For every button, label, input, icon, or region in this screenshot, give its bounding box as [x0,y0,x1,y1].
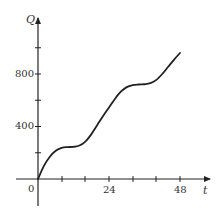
y-axis-label: Q [26,13,35,26]
y-tick-label-400: 400 [15,120,34,131]
x-tick-label-24: 24 [103,184,116,195]
chart: Q t 0 400 800 24 48 [0,0,219,214]
data-curve [38,53,180,179]
origin-label: 0 [28,183,34,194]
x-tick-label-48: 48 [174,184,187,195]
x-axis-label: t [203,184,208,197]
y-tick-label-800: 800 [15,68,34,79]
